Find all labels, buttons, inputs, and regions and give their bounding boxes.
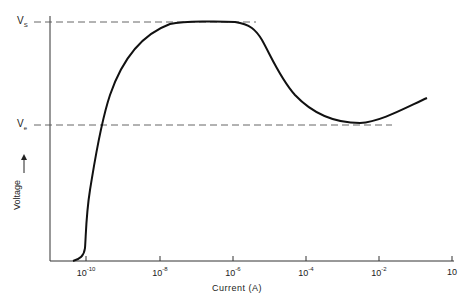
x-tick-label: 10-6	[225, 267, 240, 278]
x-tick-label: 10-10	[77, 267, 96, 278]
y-axis-label: Voltage	[12, 180, 22, 210]
x-tick-label: 10	[447, 267, 457, 277]
x-tick-label: 10-8	[152, 267, 167, 278]
x-axis-label: Current (A)	[212, 283, 262, 293]
x-tick-label: 10-4	[298, 267, 313, 278]
x-tick-label: 10-2	[371, 267, 386, 278]
ve-label: Ve	[17, 118, 27, 131]
x-ticks	[86, 256, 452, 261]
voltage-current-curve	[73, 21, 427, 261]
voltage-arrow-icon	[21, 154, 27, 160]
chart-plot-area	[0, 0, 468, 305]
vs-label: VS	[17, 15, 28, 28]
